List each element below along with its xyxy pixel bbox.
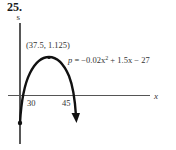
equation-part2: + 1.5x − 27 [108,55,149,65]
equation-part1: = −0.02x [72,55,106,65]
parabola-curve [20,57,76,123]
y-axis-label: s [17,12,21,22]
equation-label: p = −0.02x2 + 1.5x − 27 [67,55,150,65]
x-axis-label: x [153,91,158,101]
parabola-chart: s x (37.5, 1.125) p = −0.02x2 + 1.5x − 2… [0,0,176,150]
arrow-head-icon [72,113,81,123]
tick-30: 30 [27,98,36,108]
vertex-label: (37.5, 1.125) [26,40,70,50]
endpoint-dot [18,121,22,125]
vertex-dot [47,56,50,59]
tick-45: 45 [62,98,71,108]
